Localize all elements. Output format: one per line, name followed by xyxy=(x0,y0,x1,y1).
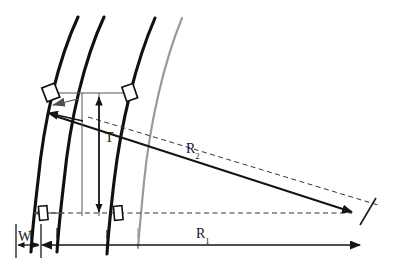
label-thickness-symbol: T xyxy=(105,130,114,145)
marker-bottom-left xyxy=(38,206,48,221)
label-radius-inner-subscript: 2 xyxy=(195,151,199,161)
label-width-subscript: m xyxy=(31,239,38,249)
marker-top-left xyxy=(42,83,60,102)
base-extension-ticks xyxy=(31,228,138,239)
marker-bottom-right xyxy=(113,206,123,221)
label-thickness: T xyxy=(105,131,114,147)
label-radius-outer-symbol: R xyxy=(196,226,205,241)
arrow-gray-wedge xyxy=(53,99,78,105)
label-width: Wm xyxy=(18,230,38,246)
label-radius-inner-symbol: R xyxy=(186,141,195,156)
label-radius-inner: R2 xyxy=(186,142,200,158)
marker-top-right xyxy=(122,84,138,102)
diagram-canvas: T R2 R1 Wm xyxy=(0,0,401,274)
label-radius-outer-subscript: 1 xyxy=(205,236,209,246)
label-radius-outer: R1 xyxy=(196,227,210,243)
r2-dashed-guide xyxy=(88,117,378,205)
vertical-extension-lines xyxy=(82,93,99,216)
label-width-symbol: W xyxy=(18,229,31,244)
